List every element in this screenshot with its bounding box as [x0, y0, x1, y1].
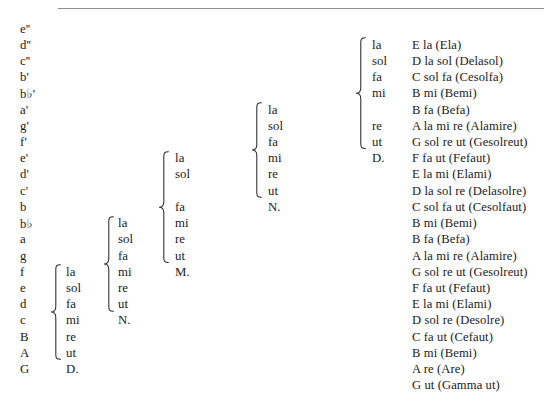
solmization-syllable: mi [66, 314, 80, 327]
octave-prime: '' [26, 54, 30, 68]
solmization-syllable: fa [175, 201, 185, 214]
brace-hexachord-5 [355, 37, 366, 149]
pitch-label: e'' [20, 23, 30, 36]
solmization-syllable: sol [118, 233, 133, 246]
solmization-syllable: re [66, 331, 76, 344]
solmization-syllable: fa [66, 298, 76, 311]
octave-prime: ' [27, 119, 29, 133]
pitch-label: b♭' [20, 87, 35, 101]
brace-hexachord-1 [50, 264, 61, 360]
octave-prime: ' [26, 184, 28, 198]
hexachord-label: M. [175, 266, 190, 279]
solmization-syllable: mi [268, 152, 282, 165]
solmization-syllable: sol [372, 55, 387, 68]
brace-hexachord-4 [251, 102, 262, 198]
solmization-syllable: fa [268, 136, 278, 149]
pitch-label: B [20, 331, 29, 344]
pitch-label: d'' [20, 39, 31, 52]
gamut-name: A re (Are) [412, 363, 465, 376]
gamut-name: B mi (Bemi) [412, 87, 477, 100]
gamut-name: F fa ut (Fefaut) [412, 152, 490, 165]
octave-prime: ' [26, 103, 28, 117]
octave-prime: '' [26, 22, 30, 36]
gamut-name: F fa ut (Fefaut) [412, 282, 490, 295]
gamut-name: C sol fa ut (Cesolfaut) [412, 201, 526, 214]
solmization-syllable: sol [268, 120, 283, 133]
pitch-label: G [20, 363, 29, 376]
solmization-syllable: mi [372, 87, 386, 100]
pitch-label: a [20, 233, 26, 246]
octave-prime: ' [33, 87, 35, 101]
solmization-syllable: la [268, 104, 277, 117]
octave-prime: ' [26, 151, 28, 165]
solmization-syllable: ut [66, 347, 76, 360]
solmization-syllable: re [268, 168, 278, 181]
pitch-label: A [20, 347, 29, 360]
pitch-label: d' [20, 168, 29, 181]
gamut-name: A la mi re (Alamire) [412, 120, 517, 133]
brace-hexachord-3 [158, 151, 169, 263]
pitch-label: g [20, 250, 27, 263]
gamut-name: E la (Ela) [412, 39, 461, 52]
solmization-syllable: ut [372, 136, 382, 149]
solmization-syllable: re [175, 233, 185, 246]
pitch-label: c [20, 314, 26, 327]
gamut-name: E la mi (Elami) [412, 298, 492, 311]
solmization-syllable: mi [175, 217, 189, 230]
gamut-name: C sol fa (Cesolfa) [412, 71, 503, 84]
solmization-syllable: sol [66, 282, 81, 295]
solmization-syllable: ut [175, 250, 185, 263]
gamut-name: B mi (Bemi) [412, 347, 477, 360]
gamut-figure: e''d''c''b'b♭'a'g'f'e'd'c'bb♭agfedcBAG l… [0, 0, 550, 394]
solmization-syllable: ut [118, 298, 128, 311]
solmization-syllable: fa [372, 71, 382, 84]
pitch-label: b [20, 201, 27, 214]
solmization-syllable: la [175, 152, 184, 165]
solmization-syllable: re [372, 120, 382, 133]
octave-prime: '' [27, 38, 31, 52]
pitch-label: a' [20, 104, 28, 117]
gamut-name: D sol re (Desolre) [412, 314, 504, 327]
gamut-name: E la mi (Elami) [412, 168, 492, 181]
pitch-label: c'' [20, 55, 30, 68]
octave-prime: ' [24, 135, 26, 149]
octave-prime: ' [27, 167, 29, 181]
gamut-name: B fa (Befa) [412, 104, 470, 117]
pitch-label: g' [20, 120, 29, 133]
gamut-name: A la mi re (Alamire) [412, 250, 517, 263]
top-rule [58, 8, 544, 9]
solmization-syllable: la [66, 266, 75, 279]
solmization-syllable: mi [118, 266, 132, 279]
pitch-label: c' [20, 185, 28, 198]
gamut-name: G sol re ut (Gesolreut) [412, 266, 528, 279]
hexachord-label: D. [372, 152, 385, 165]
gamut-name: D la sol (Delasol) [412, 55, 503, 68]
solmization-syllable: la [118, 217, 127, 230]
solmization-syllable: sol [175, 168, 190, 181]
solmization-syllable: la [372, 39, 381, 52]
gamut-name: B fa (Befa) [412, 233, 470, 246]
pitch-label: e [20, 282, 26, 295]
pitch-label: e' [20, 152, 28, 165]
solmization-syllable: fa [118, 250, 128, 263]
gamut-name: G ut (Gamma ut) [412, 379, 500, 392]
solmization-syllable: re [118, 282, 128, 295]
gamut-name: G sol re ut (Gesolreut) [412, 136, 528, 149]
gamut-name: B mi (Bemi) [412, 217, 477, 230]
pitch-label: b' [20, 71, 29, 84]
pitch-label: b♭ [20, 217, 33, 231]
brace-hexachord-2 [103, 216, 114, 312]
octave-prime: ' [27, 70, 29, 84]
gamut-name: C fa ut (Cefaut) [412, 331, 493, 344]
flat-sign: ♭ [27, 216, 33, 231]
hexachord-label: N. [268, 201, 281, 214]
pitch-label: f' [20, 136, 26, 149]
pitch-label: f [20, 266, 24, 279]
gamut-name: D la sol re (Delasolre) [412, 185, 526, 198]
pitch-label: d [20, 298, 27, 311]
hexachord-label: D. [66, 363, 79, 376]
hexachord-label: N. [118, 314, 131, 327]
solmization-syllable: ut [268, 185, 278, 198]
